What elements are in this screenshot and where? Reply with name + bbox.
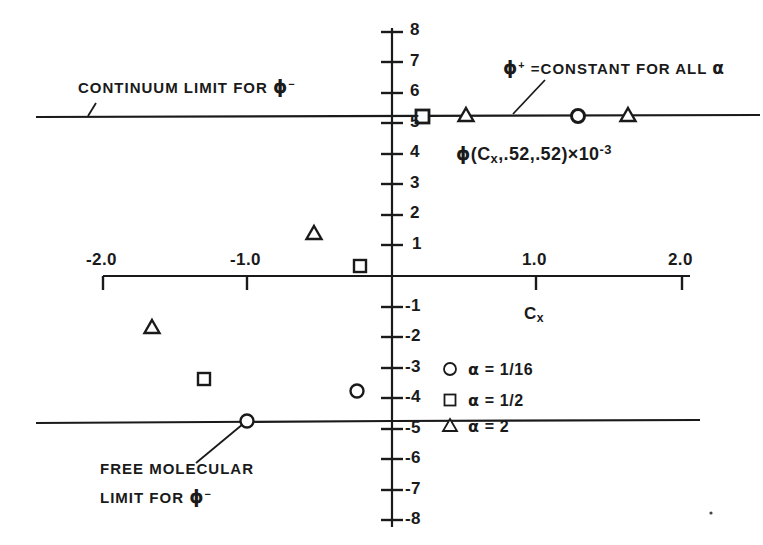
y-tick-label-minus-6: -6 bbox=[405, 448, 421, 468]
marker-triangle bbox=[145, 320, 160, 333]
y-tick-label-5: 5 bbox=[410, 112, 420, 132]
x-tick-label-minus-1: -1.0 bbox=[230, 250, 261, 270]
legend-alpha-value: = 1/2 bbox=[485, 392, 524, 409]
y-tick-label-4: 4 bbox=[410, 142, 420, 162]
phi-plus-sign: + bbox=[518, 59, 525, 71]
marker-triangle bbox=[307, 226, 322, 239]
continuum-limit-line bbox=[36, 103, 760, 117]
phi-plus-leader bbox=[513, 80, 545, 114]
y-tick-label-minus-4: -4 bbox=[405, 387, 421, 407]
marker-circle bbox=[241, 415, 254, 428]
legend-alpha-value: = 1/16 bbox=[485, 361, 534, 378]
phi-plus-constant-annotation: ϕ+ =CONSTANT FOR ALL α bbox=[503, 57, 725, 78]
marker-triangle bbox=[459, 108, 474, 121]
free-molecular-text-1: FREE MOLECULAR bbox=[100, 460, 254, 477]
y-tick-label-8: 8 bbox=[410, 20, 420, 40]
continuum-limit-annotation: CONTINUUM LIMIT FOR ϕ− bbox=[78, 76, 296, 97]
marker-square bbox=[354, 260, 366, 272]
y-tick-label-minus-1: -1 bbox=[405, 296, 421, 316]
phi-scale-symbol: ϕ bbox=[456, 143, 471, 164]
phi-plus-constant-text: =CONSTANT FOR ALL bbox=[531, 60, 707, 77]
y-tick-label-1: 1 bbox=[412, 234, 422, 254]
phi-symbol: ϕ bbox=[189, 486, 204, 507]
phi-scale-args: ,.52,.52)×10 bbox=[498, 144, 599, 164]
y-axis bbox=[381, 28, 403, 527]
phi-scale-open: (C bbox=[471, 144, 491, 164]
phi-minus-sign: − bbox=[288, 78, 295, 90]
legend-alpha-symbol: α bbox=[468, 417, 480, 436]
phi-symbol: ϕ bbox=[273, 76, 288, 97]
x-axis-label-base: C bbox=[524, 304, 537, 323]
legend-alpha-symbol: α bbox=[468, 360, 480, 379]
legend-item-alpha-1-2: α = 1/2 bbox=[468, 391, 524, 410]
continuum-limit-text: CONTINUUM LIMIT FOR bbox=[78, 79, 268, 96]
legend-item-alpha-1-16: α = 1/16 bbox=[468, 360, 533, 379]
y-tick-label-2: 2 bbox=[410, 203, 420, 223]
marker-square bbox=[198, 373, 210, 385]
chart-figure: 8 7 6 5 4 3 2 1 -1 -2 -3 -4 -5 -6 -7 -8 … bbox=[0, 0, 763, 545]
free-molecular-limit-line bbox=[36, 420, 700, 463]
free-molecular-text-2: LIMIT FOR bbox=[100, 489, 184, 506]
x-axis-label-subscript: x bbox=[537, 311, 544, 325]
legend-alpha-symbol: α bbox=[468, 391, 480, 410]
marker-circle bbox=[351, 385, 364, 398]
y-tick-label-6: 6 bbox=[410, 81, 420, 101]
y-tick-label-minus-8: -8 bbox=[405, 509, 421, 529]
y-tick-label-3: 3 bbox=[410, 173, 420, 193]
y-tick-label-minus-7: -7 bbox=[405, 479, 421, 499]
x-tick-label-minus-2: -2.0 bbox=[86, 250, 117, 270]
y-tick-label-7: 7 bbox=[410, 51, 420, 71]
free-molecular-limit-line2: LIMIT FOR ϕ− bbox=[100, 486, 212, 507]
phi-scale-annotation: ϕ(Cx,.52,.52)×10-3 bbox=[456, 142, 612, 166]
marker-circle bbox=[572, 110, 585, 123]
legend-alpha-value: = 2 bbox=[485, 418, 510, 435]
x-axis bbox=[103, 276, 690, 290]
phi-plus-symbol: ϕ bbox=[503, 57, 518, 78]
phi-minus-sign: − bbox=[205, 488, 212, 500]
phi-scale-exponent: -3 bbox=[600, 142, 612, 157]
y-tick-label-minus-3: -3 bbox=[405, 357, 421, 377]
page-speck bbox=[709, 511, 712, 514]
phi-scale-subscript: x bbox=[491, 151, 499, 166]
y-tick-label-minus-2: -2 bbox=[405, 326, 421, 346]
x-axis-label: Cx bbox=[524, 304, 544, 325]
x-tick-label-plus-2: 2.0 bbox=[668, 250, 693, 270]
x-tick-label-plus-1: 1.0 bbox=[522, 250, 547, 270]
alpha-symbol: α bbox=[712, 58, 725, 78]
free-molecular-limit-line1: FREE MOLECULAR bbox=[100, 460, 254, 477]
legend-item-alpha-2: α = 2 bbox=[468, 417, 509, 436]
y-tick-label-minus-5: -5 bbox=[405, 418, 421, 438]
